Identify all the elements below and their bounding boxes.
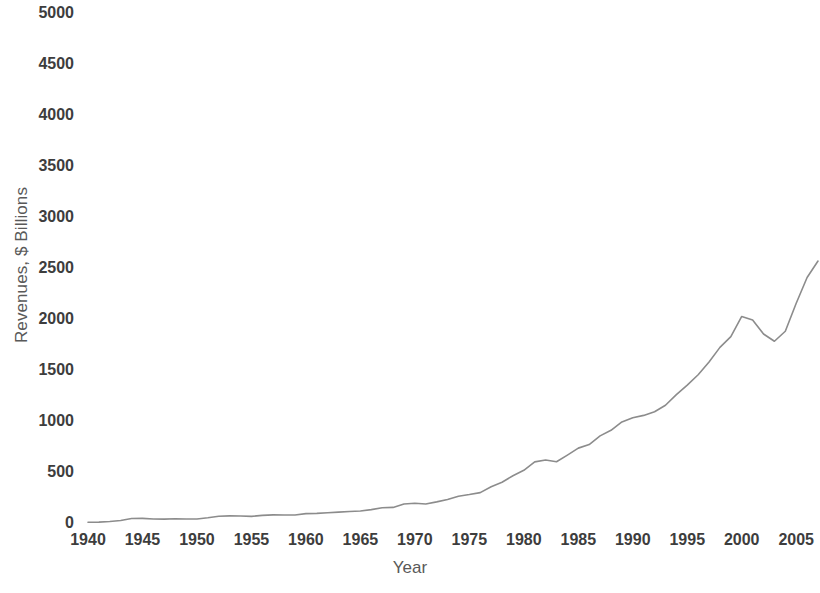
x-axis-tick-1980: 1980 xyxy=(506,531,542,549)
x-axis-tick-1960: 1960 xyxy=(288,531,324,549)
x-axis-tick-1985: 1985 xyxy=(561,531,597,549)
x-axis-tick-1970: 1970 xyxy=(397,531,433,549)
x-axis-tick-1945: 1945 xyxy=(125,531,161,549)
x-axis-tick-labels: 1940194519501955196019651970197519801985… xyxy=(0,531,820,555)
plot-area xyxy=(0,0,820,545)
x-axis-tick-1950: 1950 xyxy=(179,531,215,549)
revenues-line-series xyxy=(88,261,818,522)
x-axis-tick-1990: 1990 xyxy=(615,531,651,549)
x-axis-tick-1995: 1995 xyxy=(669,531,705,549)
x-axis-tick-1975: 1975 xyxy=(452,531,488,549)
x-axis-tick-1955: 1955 xyxy=(234,531,270,549)
x-axis-title: Year xyxy=(0,558,820,578)
x-axis-tick-1940: 1940 xyxy=(70,531,106,549)
x-axis-tick-1965: 1965 xyxy=(343,531,379,549)
x-axis-tick-2005: 2005 xyxy=(778,531,814,549)
x-axis-tick-2000: 2000 xyxy=(724,531,760,549)
revenue-line-chart: Revenues, $ Billions 0500100015002000250… xyxy=(0,0,820,593)
chart-plot-svg xyxy=(0,0,820,545)
